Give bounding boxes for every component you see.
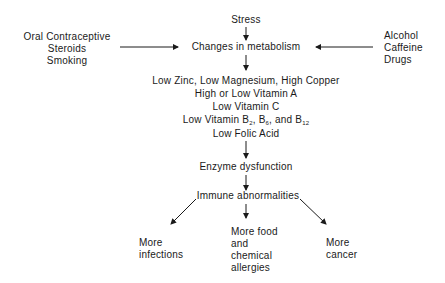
node-enzyme-dysfunction: Enzyme dysfunction bbox=[199, 161, 292, 173]
nutrient-line-vitamin-a: High or Low Vitamin A bbox=[195, 88, 297, 100]
right-inputs-block: Alcohol Caffeine Drugs bbox=[384, 30, 423, 66]
right-input-alcohol: Alcohol bbox=[384, 30, 423, 42]
nutrient-line-vitamin-b: Low Vitamin B2, B6, and B12 bbox=[183, 114, 309, 126]
outcome-more-cancer: More cancer bbox=[326, 237, 357, 261]
outcome-center-line1: More food bbox=[231, 226, 278, 238]
nutrient-line-zinc-magnesium-copper: Low Zinc, Low Magnesium, High Copper bbox=[152, 75, 339, 87]
vitamin-b-sep1: , B bbox=[253, 114, 266, 125]
left-input-smoking: Smoking bbox=[22, 55, 112, 67]
node-stress: Stress bbox=[231, 14, 261, 26]
outcome-more-allergies: More food and chemical allergies bbox=[231, 226, 278, 274]
vitamin-b-prefix: Low Vitamin B bbox=[183, 114, 249, 125]
nutrient-line-folic-acid: Low Folic Acid bbox=[213, 128, 280, 140]
outcome-left-line2: infections bbox=[139, 249, 183, 261]
arrow-immune-to-cancer bbox=[300, 199, 326, 224]
vitamin-b-sep2: , and B bbox=[269, 114, 302, 125]
right-input-caffeine: Caffeine bbox=[384, 42, 423, 54]
vitamin-b12-subscript: 12 bbox=[302, 120, 309, 126]
node-changes-in-metabolism: Changes in metabolism bbox=[192, 41, 301, 53]
arrow-immune-to-infections bbox=[171, 199, 196, 224]
outcome-center-line2: and bbox=[231, 238, 278, 250]
nutrient-line-vitamin-c: Low Vitamin C bbox=[213, 101, 280, 113]
left-inputs-block: Oral Contraceptive Steroids Smoking bbox=[22, 31, 112, 67]
outcome-right-line2: cancer bbox=[326, 249, 357, 261]
left-input-oral-contraceptive: Oral Contraceptive bbox=[22, 31, 112, 43]
right-input-drugs: Drugs bbox=[384, 54, 423, 66]
node-immune-abnormalities: Immune abnormalities bbox=[197, 190, 299, 202]
left-input-steroids: Steroids bbox=[22, 43, 112, 55]
outcome-left-line1: More bbox=[139, 237, 183, 249]
outcome-right-line1: More bbox=[326, 237, 357, 249]
outcome-center-line4: allergies bbox=[231, 262, 278, 274]
outcome-center-line3: chemical bbox=[231, 250, 278, 262]
outcome-more-infections: More infections bbox=[139, 237, 183, 261]
